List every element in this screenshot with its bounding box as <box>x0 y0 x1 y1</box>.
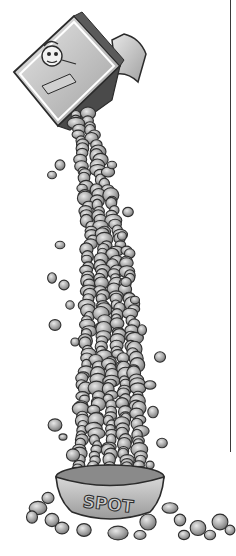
kibble-piece <box>144 381 156 390</box>
kibble-piece <box>48 419 62 431</box>
kibble-piece <box>157 438 168 447</box>
kibble-piece <box>55 160 65 170</box>
kibble-piece <box>155 352 166 362</box>
kibble-piece <box>134 531 146 540</box>
kibble-piece <box>190 521 206 536</box>
kibble-piece <box>140 514 156 530</box>
illustration-canvas: SPOT <box>0 0 236 556</box>
kibble-piece <box>107 161 116 168</box>
kibble-piece <box>174 514 185 526</box>
kibble-piece <box>225 525 235 535</box>
kibble-illustration: SPOT <box>0 0 236 556</box>
kibble-stream <box>48 107 168 482</box>
kibble-piece <box>178 530 189 539</box>
kibble-piece <box>108 526 128 540</box>
kibble-piece <box>55 241 65 249</box>
kibble-piece <box>131 296 140 304</box>
kibble-piece <box>66 449 79 461</box>
kibble-piece <box>42 492 54 503</box>
kibble-piece <box>77 524 91 537</box>
kibble-piece <box>48 171 57 179</box>
kibble-piece <box>49 320 61 331</box>
kibble-piece <box>59 434 67 440</box>
kibble-piece <box>204 530 215 539</box>
kibble-piece <box>162 503 178 514</box>
kibble-piece <box>121 278 131 287</box>
kibble-piece <box>59 280 69 290</box>
kibble-piece <box>118 232 127 240</box>
kibble-piece <box>48 273 57 283</box>
kibble-piece <box>55 522 69 534</box>
kibble-piece <box>148 406 158 418</box>
vertical-rule-line <box>230 0 231 452</box>
kibble-piece <box>66 301 74 309</box>
kibble-piece <box>27 511 38 523</box>
kibble-piece <box>123 207 134 216</box>
dog-bowl: SPOT <box>56 465 164 519</box>
kibble-piece <box>138 325 147 335</box>
kibble-piece <box>71 338 79 346</box>
